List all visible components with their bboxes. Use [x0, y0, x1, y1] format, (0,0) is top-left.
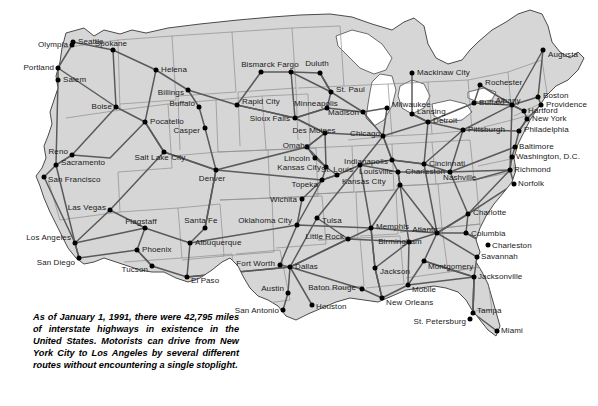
- city-label: Billings: [158, 88, 184, 97]
- city-dot: [71, 40, 76, 45]
- city-dot: [472, 275, 477, 280]
- city-label: Philadelphia: [524, 125, 569, 134]
- city-dot: [203, 126, 208, 131]
- city-dot: [143, 226, 148, 231]
- city-dot: [422, 162, 427, 167]
- interstate-highway-map: OlympiaSeattleSpokanePortlandSalemHelena…: [0, 0, 598, 406]
- city-dot: [77, 256, 82, 261]
- city-label: Nashville: [443, 173, 476, 182]
- city-label: San Antonio: [235, 306, 279, 315]
- city-dot: [197, 105, 202, 110]
- city-dot: [203, 226, 208, 231]
- city-dot: [396, 170, 401, 175]
- city-dot: [360, 287, 365, 292]
- city-label: Charleston: [492, 241, 532, 250]
- city-dot: [513, 145, 518, 150]
- city-dot: [286, 291, 291, 296]
- city-dot: [235, 103, 240, 108]
- city-dot: [510, 155, 515, 160]
- city-dot: [525, 117, 530, 122]
- city-dot: [278, 263, 283, 268]
- city-dot: [508, 168, 513, 173]
- city-label: Houston: [316, 302, 347, 311]
- city-label: Mackinaw City: [417, 68, 470, 77]
- city-dot: [478, 83, 483, 88]
- city-label: San Diego: [37, 258, 75, 267]
- city-label: New York: [532, 114, 567, 123]
- city-label: Little Rock: [306, 232, 344, 241]
- city-label: Portland: [23, 63, 54, 72]
- city-dot: [346, 237, 351, 242]
- city-label: Baton Rouge: [308, 283, 356, 292]
- city-dot: [56, 66, 61, 71]
- city-label: Birmingham: [378, 237, 422, 246]
- city-dot: [70, 153, 75, 158]
- city-label: Tulsa: [322, 216, 342, 225]
- city-dot: [135, 248, 140, 253]
- city-label: Oklahoma City: [238, 216, 292, 225]
- city-dot: [300, 197, 305, 202]
- city-label: Helena: [161, 65, 187, 74]
- city-label: Boston: [543, 91, 569, 100]
- city-label: Detroit: [433, 116, 457, 125]
- city-label: St. Paul: [336, 85, 365, 94]
- city-label: Charleston: [405, 167, 445, 176]
- city-dot: [517, 129, 522, 134]
- city-dot: [406, 283, 411, 288]
- city-label: Bismarck: [241, 60, 275, 69]
- city-label: San Francisco: [48, 175, 100, 184]
- city-label: Pittsburgh: [468, 125, 505, 134]
- city-label: Fargo: [277, 60, 298, 69]
- city-label: Miami: [501, 326, 523, 335]
- city-label: Los Angeles: [26, 233, 71, 242]
- city-label: Des Moines: [292, 126, 335, 135]
- city-label: Minneapolis: [294, 99, 338, 108]
- city-label: Denver: [199, 174, 225, 183]
- city-label: Boise: [91, 102, 112, 111]
- city-dot: [495, 329, 500, 334]
- city-label: Sacramento: [61, 158, 105, 167]
- city-label: Lincoln: [284, 154, 310, 163]
- city-label: Flagstaff: [125, 217, 156, 226]
- city-dot: [468, 317, 473, 322]
- city-dot: [259, 70, 264, 75]
- city-dot: [288, 265, 293, 270]
- city-label: Wichita: [270, 195, 297, 204]
- city-label: Tampa: [477, 306, 502, 315]
- city-dot: [536, 95, 541, 100]
- city-dot: [486, 243, 491, 248]
- city-dot: [281, 308, 286, 313]
- city-label: Atlanta: [412, 225, 438, 234]
- city-label: Chicago: [350, 129, 380, 138]
- city-label: Duluth: [305, 59, 329, 68]
- city-dot: [380, 296, 385, 301]
- city-dot: [42, 175, 47, 180]
- city-dot: [522, 109, 527, 114]
- city-dot: [214, 168, 219, 173]
- city-label: Jacksonville: [478, 272, 522, 281]
- city-dot: [398, 183, 403, 188]
- city-label: Louisville: [359, 167, 393, 176]
- city-label: Augusta: [548, 50, 578, 59]
- city-dot: [313, 156, 318, 161]
- city-dot: [73, 241, 78, 246]
- city-label: Spokane: [95, 39, 127, 48]
- city-label: Fort Worth: [236, 259, 275, 268]
- city-label: Rochester: [485, 78, 522, 87]
- city-dot: [361, 110, 366, 115]
- city-dot: [56, 78, 61, 83]
- city-label: Charlotte: [473, 208, 506, 217]
- city-dot: [373, 266, 378, 271]
- city-label: Jackson: [380, 267, 410, 276]
- city-label: Columbia: [471, 229, 506, 238]
- city-dot: [143, 120, 148, 125]
- city-dot: [329, 90, 334, 95]
- city-dot: [54, 163, 59, 168]
- city-dot: [410, 112, 415, 117]
- city-label: Norfolk: [518, 179, 544, 188]
- city-dot: [295, 223, 300, 228]
- city-label: Baltimore: [519, 142, 554, 151]
- city-dot: [472, 101, 477, 106]
- city-dot: [188, 241, 193, 246]
- city-label: Topeka: [292, 180, 318, 189]
